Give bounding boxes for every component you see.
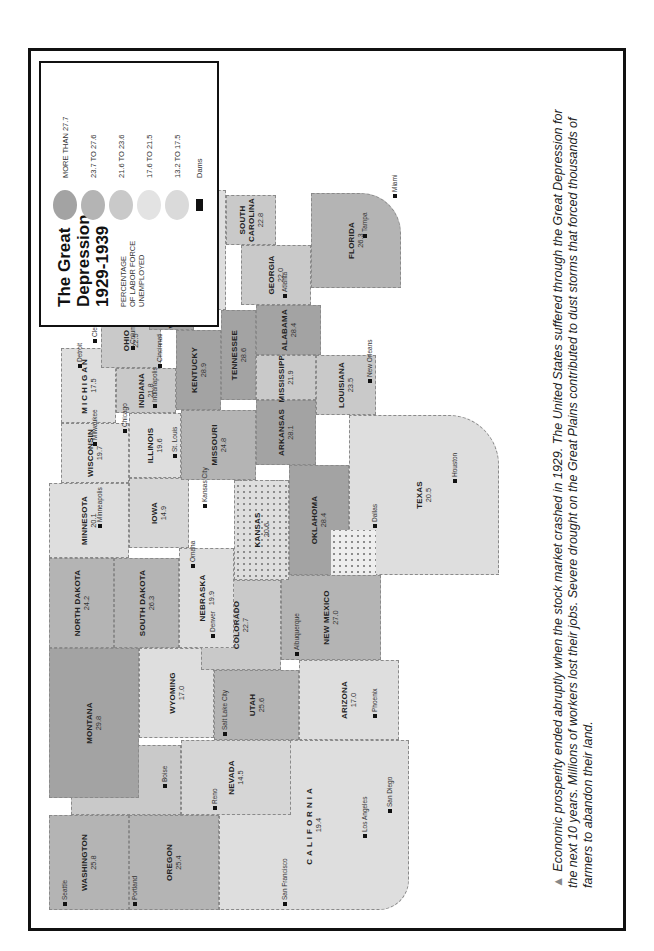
- map-canvas: WASHINGTON 25.8 OREGON 25.4 CALIFORNIA 1…: [31, 51, 623, 928]
- caption-text: Economic prosperity ended abruptly when …: [551, 109, 595, 888]
- state-alabama: ALABAMA 28.4: [256, 305, 321, 355]
- city-dot-icon: [133, 902, 137, 906]
- state-label: MISSOURI: [210, 424, 219, 465]
- state-value: 28.6: [239, 348, 248, 363]
- state-florida: FLORIDA 26.3: [311, 193, 401, 288]
- state-label: NORTH DAKOTA: [73, 570, 82, 637]
- dust-bowl-area: [331, 530, 376, 575]
- state-value: 14.9: [159, 506, 168, 521]
- state-nebraska: NEBRASKA 19.9: [179, 548, 234, 648]
- legend-item: 13.2 TO 17.5: [165, 134, 189, 220]
- state-label: CALIFORNIA: [305, 785, 314, 864]
- city-phoenix: Phoenix: [371, 689, 378, 719]
- state-label: KENTUCKY: [190, 347, 199, 393]
- city-dot-icon: [153, 404, 157, 408]
- city-los-angeles: Los Angeles: [361, 797, 368, 838]
- state-arizona: ARIZONA 17.0: [299, 660, 399, 740]
- legend-item-dams: Dams: [195, 158, 204, 220]
- state-value: 20.5: [424, 488, 433, 503]
- city-dot-icon: [368, 379, 372, 383]
- city-dot-icon: [203, 504, 207, 508]
- state-value: 17.0: [349, 693, 358, 708]
- state-value: 22.7: [241, 618, 250, 633]
- city-atlanta: Atlanta: [281, 272, 288, 298]
- state-label: FLORIDA: [347, 222, 356, 259]
- city-albuquerque: Albuquerque: [293, 613, 300, 656]
- city-portland: Portland: [131, 876, 138, 906]
- state-label: GEORGIA: [267, 255, 276, 294]
- state-mississippi: MISSISSIPPI 21.9: [256, 355, 316, 400]
- state-value: 21.9: [286, 370, 295, 385]
- state-label: MONTANA: [85, 702, 94, 744]
- city-dot-icon: [131, 346, 135, 350]
- city-dot-icon: [388, 809, 392, 813]
- state-label: SOUTH DAKOTA: [138, 570, 147, 636]
- state-value: 24.2: [82, 596, 91, 611]
- city-dot-icon: [373, 524, 377, 528]
- state-label: NEVADA: [227, 760, 236, 794]
- city-dot-icon: [163, 784, 167, 788]
- state-north-dakota: NORTH DAKOTA 24.2: [49, 558, 114, 648]
- state-label: MISSISSIPPI: [277, 353, 286, 403]
- legend-swatch-icon: [165, 190, 189, 220]
- city-seattle: Seattle: [61, 880, 68, 906]
- state-label: ARKANSAS: [277, 409, 286, 456]
- state-label: TENNESSEE: [230, 330, 239, 380]
- state-value: 20.6: [262, 523, 271, 538]
- state-value: 19.9: [207, 591, 216, 606]
- legend-swatch-icon: [81, 190, 105, 220]
- state-label: OREGON: [165, 844, 174, 881]
- map-caption: ▲Economic prosperity ended abruptly when…: [551, 108, 596, 888]
- city-dot-icon: [363, 234, 367, 238]
- state-value: 28.4: [319, 513, 328, 528]
- city-miami: Miami: [391, 175, 398, 198]
- city-dot-icon: [213, 806, 217, 810]
- state-label: TEXAS: [415, 481, 424, 509]
- city-dot-icon: [223, 732, 227, 736]
- city-dot-icon: [93, 339, 97, 343]
- state-value: 24.8: [219, 438, 228, 453]
- city-dot-icon: [295, 652, 299, 656]
- dam-icon: [196, 199, 203, 211]
- city-dot-icon: [78, 364, 82, 368]
- state-montana: MONTANA 29.8: [49, 648, 139, 798]
- city-dot-icon: [173, 454, 177, 458]
- state-label: ARIZONA: [340, 681, 349, 719]
- city-dot-icon: [393, 194, 397, 198]
- state-value: 25.6: [257, 698, 266, 713]
- state-label: MINNESOTA: [80, 496, 89, 545]
- legend-swatch-icon: [53, 190, 77, 220]
- state-value: 27.0: [331, 610, 340, 625]
- city-dot-icon: [158, 364, 162, 368]
- city-boise: Boise: [161, 766, 168, 788]
- city-dot-icon: [191, 564, 195, 568]
- city-dot-icon: [211, 634, 215, 638]
- state-label: ILLINOIS: [146, 428, 155, 463]
- city-omaha: Omaha: [189, 541, 196, 568]
- city-dallas: Dallas: [371, 504, 378, 528]
- city-dot-icon: [373, 714, 377, 718]
- state-value: 26.3: [147, 596, 156, 611]
- city-dot-icon: [283, 902, 287, 906]
- triangle-bullet-icon: ▲: [551, 876, 565, 888]
- state-value: 28.4: [289, 323, 298, 338]
- legend-swatch-icon: [109, 190, 133, 220]
- map-frame: WASHINGTON 25.8 OREGON 25.4 CALIFORNIA 1…: [28, 48, 626, 931]
- state-value: 17.0: [177, 686, 186, 701]
- city-dot-icon: [98, 524, 102, 528]
- city-cincinnati: Cincinnati: [156, 333, 163, 368]
- state-label: LOUISIANA: [337, 362, 346, 408]
- state-label: NEW MEXICO: [322, 590, 331, 644]
- city-dot-icon: [123, 429, 127, 433]
- state-minnesota: MINNESOTA 20.1: [49, 483, 129, 558]
- state-kentucky: KENTUCKY 28.9: [176, 330, 221, 410]
- state-oregon: OREGON 25.4: [129, 815, 219, 910]
- state-value: 19.7: [95, 446, 104, 461]
- city-reno: Reno: [211, 788, 218, 810]
- city-san-diego: San Diego: [386, 777, 393, 813]
- city-dot-icon: [283, 294, 287, 298]
- state-value: 23.5: [346, 378, 355, 393]
- state-south-carolina: SOUTH CAROLINA 22.8: [226, 195, 276, 245]
- state-value: 14.5: [236, 770, 245, 785]
- state-label: WYOMING: [168, 672, 177, 713]
